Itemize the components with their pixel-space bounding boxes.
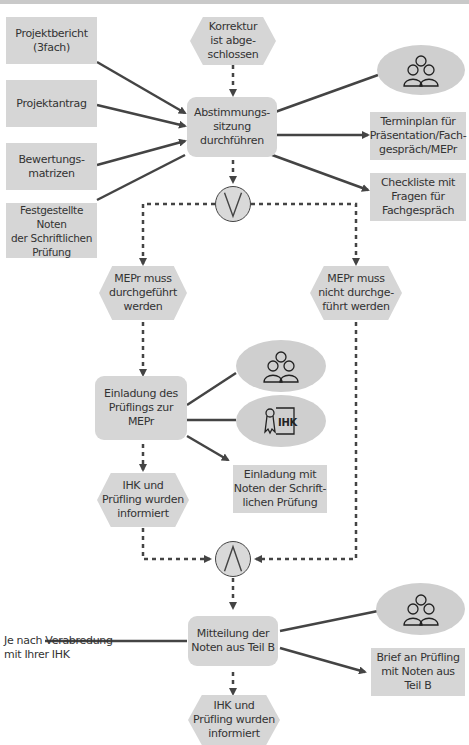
input-festgestellte-noten: Festgestellte Noten der Schriftlichen Pr… xyxy=(6,203,97,258)
event-informiert-1: IHK und Prüfling wurden informiert xyxy=(97,473,189,527)
output-checkliste: Checkliste mit Fragen für Fachgespräch xyxy=(370,173,466,221)
input-projektbericht: Projektbericht (3fach) xyxy=(6,17,97,64)
ihk-certificate-icon: IHK xyxy=(258,404,304,438)
people-group-icon xyxy=(236,340,326,392)
people-group-icon xyxy=(398,53,444,87)
event-mepr-muss: MEPr muss durchgeführt werden xyxy=(99,266,187,320)
function-mitteilung: Mitteilung der Noten aus Teil B xyxy=(188,616,278,666)
input-bewertungsmatrizen: Bewertungs- matrizen xyxy=(6,143,97,190)
annotation-verabredung: Je nach Verabredung mit Ihrer IHK xyxy=(4,634,124,664)
svg-text:IHK: IHK xyxy=(278,417,298,428)
xor-connector xyxy=(215,186,251,222)
output-einladung-noten: Einladung mit Noten der Schrift- lichen … xyxy=(233,465,327,513)
event-mepr-nicht: MEPr muss nicht durchge- führt werden xyxy=(310,266,402,320)
output-brief: Brief an Prüfling mit Noten aus Teil B xyxy=(371,648,465,696)
function-einladung: Einladung des Prüflings zur MEPr xyxy=(95,376,187,440)
input-projektantrag: Projektantrag xyxy=(6,80,97,127)
event-korrektur: Korrektur ist abge- schlossen xyxy=(190,17,276,65)
and-connector xyxy=(215,541,251,577)
output-terminplan: Terminplan für Präsentation/Fach- gesprä… xyxy=(370,112,466,160)
event-informiert-2: IHK und Prüfling wurden informiert xyxy=(188,695,280,745)
people-group-icon xyxy=(258,349,304,383)
function-abstimmungssitzung: Abstimmungs- sitzung durchführen xyxy=(187,97,277,157)
people-group-icon xyxy=(398,592,444,626)
people-group-icon xyxy=(377,45,465,95)
people-group-icon xyxy=(376,583,465,635)
ihk-certificate-icon: IHK xyxy=(236,395,326,447)
